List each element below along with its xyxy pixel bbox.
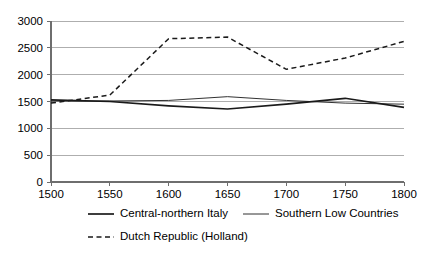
x-axis-ticks xyxy=(51,182,404,186)
line-chart: 050010001500200025003000 150015501600165… xyxy=(0,0,424,258)
chart-canvas: 050010001500200025003000 150015501600165… xyxy=(0,0,424,258)
y-tick-label: 0 xyxy=(37,176,43,188)
y-tick-label: 1000 xyxy=(17,122,43,134)
y-axis-tick-labels: 050010001500200025003000 xyxy=(17,15,43,188)
x-tick-label: 1650 xyxy=(215,188,241,200)
x-tick-label: 1550 xyxy=(97,188,123,200)
y-tick-label: 2500 xyxy=(17,42,43,54)
series-line-dutch-republic-holland xyxy=(51,37,404,103)
gridlines xyxy=(51,21,404,155)
x-tick-label: 1500 xyxy=(38,188,64,200)
y-tick-label: 1500 xyxy=(17,96,43,108)
legend-label: Dutch Republic (Holland) xyxy=(120,230,248,242)
x-axis-tick-labels: 1500155016001650170017501800 xyxy=(38,188,417,200)
series-line-southern-low-countries xyxy=(51,97,404,105)
y-axis-ticks xyxy=(47,21,51,182)
y-tick-label: 2000 xyxy=(17,69,43,81)
chart-legend: Central-northern ItalySouthern Low Count… xyxy=(88,207,399,242)
x-tick-label: 1800 xyxy=(391,188,417,200)
y-tick-label: 500 xyxy=(24,149,43,161)
legend-label: Southern Low Countries xyxy=(275,207,399,219)
y-tick-label: 3000 xyxy=(17,15,43,27)
x-tick-label: 1750 xyxy=(332,188,358,200)
x-tick-label: 1600 xyxy=(156,188,182,200)
legend-label: Central-northern Italy xyxy=(120,207,228,219)
x-tick-label: 1700 xyxy=(274,188,300,200)
